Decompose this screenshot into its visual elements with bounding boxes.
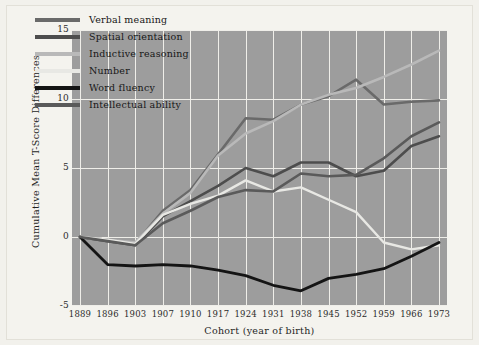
legend-item-label: Number [89, 65, 130, 76]
legend-item-label: Intellectual ability [89, 99, 181, 110]
x-axis-title: Cohort (year of birth) [72, 325, 447, 336]
chart-legend: Verbal meaningSpatial orientationInducti… [35, 11, 245, 113]
figure-inner-panel: Cumulative Mean T-Score Differences 1510… [6, 5, 473, 340]
legend-item-label: Verbal meaning [89, 14, 167, 25]
figure: Cumulative Mean T-Score Differences 1510… [0, 0, 479, 345]
legend-color-swatch [35, 35, 80, 39]
legend-color-swatch [35, 18, 80, 22]
legend-item: Word fluency [35, 79, 245, 96]
legend-item-label: Inductive reasoning [89, 48, 189, 59]
legend-color-swatch [35, 52, 80, 56]
series-line [80, 122, 439, 245]
y-axis-tick-label: 0 [35, 231, 69, 241]
legend-color-swatch [35, 103, 80, 107]
legend-item-label: Spatial orientation [89, 31, 183, 42]
legend-item: Inductive reasoning [35, 45, 245, 62]
legend-item-label: Word fluency [89, 82, 155, 93]
legend-color-swatch [35, 69, 80, 73]
legend-item: Spatial orientation [35, 28, 245, 45]
legend-color-swatch [35, 86, 80, 90]
x-axis-tick-labels: 1889189619031907191019171924193119381945… [72, 309, 447, 325]
y-axis-tick-label: 5 [35, 162, 69, 172]
legend-item: Number [35, 62, 245, 79]
legend-item: Intellectual ability [35, 96, 245, 113]
legend-item: Verbal meaning [35, 11, 245, 28]
x-axis-tick-label: 1973 [419, 309, 459, 319]
